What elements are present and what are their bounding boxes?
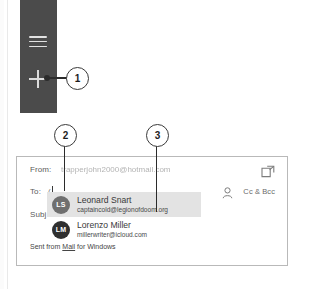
person-icon[interactable] [222, 185, 233, 197]
avatar: LM [52, 221, 70, 239]
subject-label: Subj [30, 210, 46, 219]
hamburger-menu-icon[interactable] [29, 36, 47, 47]
contact-name: Leonard Snart [77, 195, 168, 205]
list-item[interactable]: LM Lorenzo Miller millerwriter@icloud.co… [47, 217, 201, 242]
contact-suggestion-dropdown: LS Leonard Snart captaincold@legionofdoo… [47, 192, 201, 242]
signature-prefix: Sent from [30, 243, 62, 250]
from-field-row: From: trapperjohn2000@hotmail.com [17, 165, 287, 185]
list-item[interactable]: LS Leonard Snart captaincold@legionofdoo… [47, 192, 201, 217]
callout-2: 2 [54, 124, 77, 147]
popout-window-icon[interactable] [261, 164, 275, 177]
to-label: To: [30, 187, 41, 196]
callout-1: 1 [66, 67, 89, 90]
contact-name: Lorenzo Miller [77, 220, 147, 230]
email-signature: Sent from Mail for Windows [30, 243, 116, 250]
cc-bcc-button[interactable]: Cc & Bcc [243, 187, 275, 196]
callout-3: 3 [146, 124, 169, 147]
signature-link[interactable]: Mail [62, 243, 75, 250]
contact-email: captaincold@legionofdoom.org [77, 205, 168, 214]
from-address-value: trapperjohn2000@hotmail.com [61, 165, 171, 174]
avatar: LS [52, 196, 70, 214]
callout-2-leader-line [64, 144, 66, 191]
app-navigation-rail [20, 0, 57, 113]
callout-3-leader-line [156, 144, 158, 212]
callout-1-leader-line [47, 77, 67, 79]
contact-email: millerwriter@icloud.com [77, 230, 147, 239]
callout-1-leader-dot [44, 75, 50, 81]
signature-suffix: for Windows [75, 243, 115, 250]
scan-page-edge-line [7, 0, 8, 289]
from-label: From: [30, 165, 51, 174]
compose-email-card: From: trapperjohn2000@hotmail.com To: ( … [16, 156, 288, 266]
scan-page-edge-fill [0, 0, 4, 289]
